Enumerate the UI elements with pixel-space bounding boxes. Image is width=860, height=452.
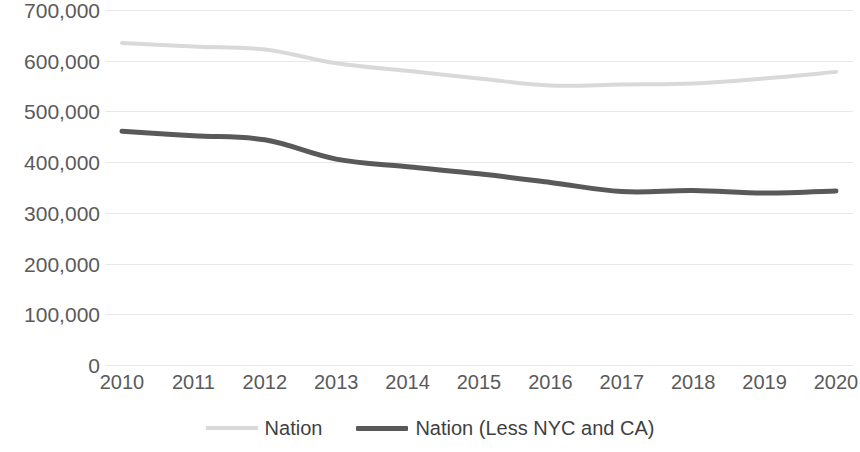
- legend-item[interactable]: Nation: [206, 418, 323, 438]
- chart-legend: NationNation (Less NYC and CA): [0, 418, 860, 438]
- gridline: [105, 365, 853, 366]
- legend-color-swatch: [206, 426, 258, 430]
- x-axis-tick-label: 2013: [314, 372, 359, 392]
- y-axis-tick-label: 600,000: [0, 50, 100, 71]
- x-axis-tick-label: 2012: [243, 372, 288, 392]
- y-axis-tick-label: 0: [0, 355, 100, 376]
- y-axis: 700,000600,000500,000400,000300,000200,0…: [0, 0, 100, 375]
- y-axis-tick-label: 200,000: [0, 253, 100, 274]
- x-axis: 2010201120122013201420152016201720182019…: [105, 372, 853, 404]
- series-line: [122, 131, 836, 193]
- x-axis-tick-label: 2014: [385, 372, 430, 392]
- x-axis-tick-label: 2017: [600, 372, 645, 392]
- x-axis-tick-label: 2016: [528, 372, 573, 392]
- x-axis-tick-label: 2010: [100, 372, 145, 392]
- series-layer: [105, 10, 853, 365]
- legend-color-swatch: [356, 426, 408, 431]
- line-chart: 700,000600,000500,000400,000300,000200,0…: [0, 0, 860, 452]
- x-axis-tick-label: 2011: [172, 372, 215, 392]
- series-line: [122, 43, 836, 86]
- y-axis-tick-label: 100,000: [0, 304, 100, 325]
- x-axis-tick-label: 2015: [457, 372, 502, 392]
- y-axis-tick-label: 700,000: [0, 0, 100, 21]
- legend-item[interactable]: Nation (Less NYC and CA): [356, 418, 654, 438]
- plot-area: [105, 10, 853, 365]
- x-axis-tick-label: 2019: [742, 372, 787, 392]
- legend-label: Nation: [265, 418, 323, 438]
- y-axis-tick-label: 300,000: [0, 202, 100, 223]
- x-axis-tick-label: 2018: [671, 372, 716, 392]
- legend-label: Nation (Less NYC and CA): [415, 418, 654, 438]
- x-axis-tick-label: 2020: [814, 372, 859, 392]
- y-axis-tick-label: 500,000: [0, 101, 100, 122]
- y-axis-tick-label: 400,000: [0, 152, 100, 173]
